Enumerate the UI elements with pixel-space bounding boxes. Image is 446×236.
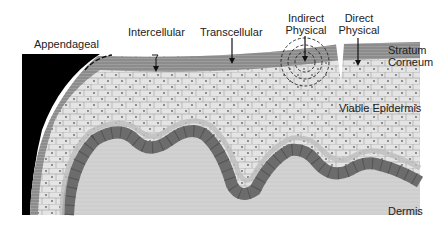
label-intercellular: Intercellular (128, 26, 185, 38)
label-viable-epidermis: Viable Epidermis (339, 102, 421, 114)
label-stratum-corneum: Stratum Corneum (388, 44, 422, 68)
label-appendageal: Appendageal (34, 38, 99, 50)
label-direct-physical: Direct Physical (336, 12, 382, 36)
label-indirect-physical: Indirect Physical (284, 12, 328, 36)
label-transcellular: Transcellular (200, 26, 263, 38)
label-dermis: Dermis (388, 205, 423, 217)
